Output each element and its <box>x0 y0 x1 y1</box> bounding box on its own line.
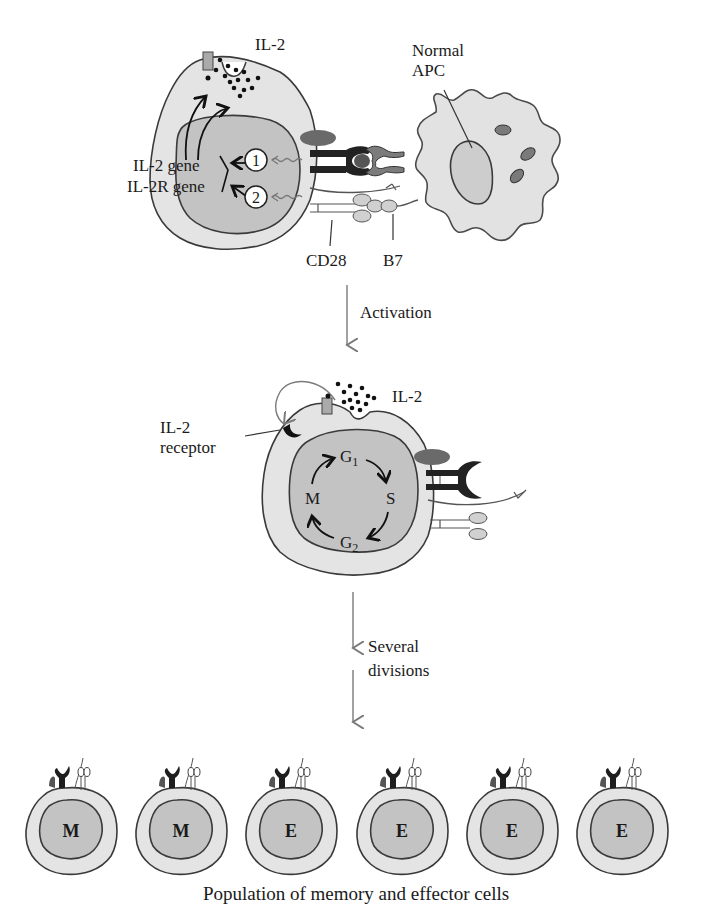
receptor-leader <box>245 430 280 436</box>
population-caption: Population of memory and effector cells <box>203 883 509 904</box>
daughter-cells: M M E <box>26 758 668 874</box>
tcr-middle <box>426 461 482 498</box>
cd28-leader <box>330 220 332 246</box>
svg-text:M: M <box>63 821 80 841</box>
activated-t-cell <box>150 52 317 249</box>
daughter-cell-1: M <box>26 758 117 874</box>
daughter-cell-3: E <box>246 758 337 874</box>
il2-gene-label: IL-2 gene <box>133 156 200 175</box>
il2-label-middle: IL-2 <box>392 387 422 406</box>
apc-label-line2: APC <box>412 61 445 80</box>
svg-text:M: M <box>173 821 190 841</box>
svg-text:E: E <box>506 821 518 841</box>
receptor-label-line1: IL-2 <box>160 418 190 437</box>
tcr-mhc-complex <box>310 146 404 176</box>
activation-label: Activation <box>360 303 432 322</box>
svg-text:1: 1 <box>252 152 260 169</box>
coreceptor-oval-middle <box>414 449 450 465</box>
coreceptor-oval <box>300 130 336 146</box>
svg-text:E: E <box>616 821 628 841</box>
receptor-label-line2: receptor <box>160 438 216 457</box>
cd28-label: CD28 <box>306 251 347 270</box>
svg-text:E: E <box>285 821 297 841</box>
signal-2-badge: 2 <box>245 186 267 208</box>
daughter-cell-2: M <box>136 758 227 874</box>
diagram-canvas: IL-2 IL-2 gene IL-2R gene 1 2 <box>0 0 708 920</box>
b7-label: B7 <box>383 251 403 270</box>
svg-text:E: E <box>396 821 408 841</box>
il2-label-top: IL-2 <box>255 35 285 54</box>
daughter-cell-5: E <box>467 758 558 874</box>
cd28-middle <box>430 513 487 540</box>
daughter-cell-6: E <box>577 758 668 874</box>
cd28-b7-complex <box>310 194 418 222</box>
daughter-cell-4: E <box>357 758 448 874</box>
il2r-gene-label: IL-2R gene <box>127 177 205 196</box>
divisions-label-line2: divisions <box>368 661 429 680</box>
svg-text:2: 2 <box>252 189 260 206</box>
divisions-label-line1: Several <box>368 637 419 656</box>
cycle-m: M <box>305 489 320 508</box>
apc-label-line1: Normal <box>412 41 464 60</box>
apc-cell <box>416 90 560 241</box>
signal-1-badge: 1 <box>245 149 267 171</box>
cycle-s: S <box>386 489 395 508</box>
